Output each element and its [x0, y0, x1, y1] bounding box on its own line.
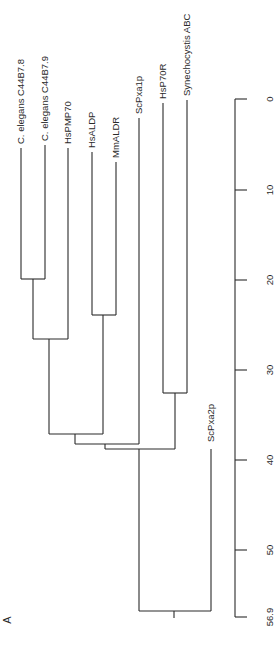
leaf-label-hsaldp: HsALDP: [86, 112, 97, 148]
axis-label-20: 20: [264, 275, 275, 286]
leaf-label-hsp70r: HsP70R: [157, 63, 168, 99]
leaf-label-scpxa1p: ScPxa1p: [133, 76, 144, 114]
leaf-label-mmaldr: MmALDR: [110, 117, 121, 158]
distance-axis: 0 10 20 30 40 50 56.9: [235, 96, 275, 626]
panel-label: A: [1, 616, 13, 624]
axis-label-40: 40: [264, 455, 275, 466]
axis-label-56-9: 56.9: [264, 608, 275, 627]
axis-label-0: 0: [264, 96, 275, 101]
axis-label-30: 30: [264, 365, 275, 376]
leaf-label-scpxa2p: ScPxa2p: [205, 404, 216, 442]
leaf-label-synechocystis-abc: Synechocystis ABC: [181, 13, 192, 96]
axis-label-50: 50: [264, 545, 275, 556]
leaf-label-c-elegans-c44b7-8: C. elegans C44B7.8: [15, 59, 26, 144]
dendrogram-figure: C. elegans C44B7.8 C. elegans C44B7.9 Hs…: [0, 0, 279, 647]
leaf-label-c-elegans-c44b7-9: C. elegans C44B7.9: [39, 56, 50, 141]
axis-label-10: 10: [264, 185, 275, 196]
tree-branches: [21, 100, 211, 618]
leaf-label-hspmp70: HsPMP70: [62, 101, 73, 144]
